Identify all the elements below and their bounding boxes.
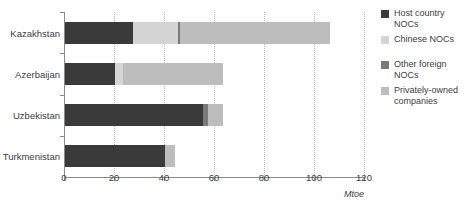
- gridline: [364, 12, 365, 177]
- category-label: Uzbekistan: [13, 110, 60, 121]
- legend-item: Other foreign NOCs: [381, 59, 466, 80]
- legend-swatch-icon: [381, 87, 389, 95]
- x-axis-tick-label: 80: [259, 172, 270, 183]
- category-label: Azerbaijan: [15, 68, 60, 79]
- x-axis-unit-label: Mtoe: [64, 189, 364, 199]
- legend-label: Chinese NOCs: [394, 34, 466, 45]
- bar-segment: [133, 22, 178, 44]
- legend-label: Privately-owned companies: [394, 85, 466, 106]
- x-axis-tick-label: 20: [109, 172, 120, 183]
- stacked-bar-chart: 020406080100120 KazakhstanAzerbaijanUzbe…: [0, 0, 466, 209]
- bar-segment: [180, 22, 330, 44]
- x-axis-tick-label: 0: [61, 172, 66, 183]
- bar-segment: [115, 63, 123, 85]
- legend-swatch-icon: [381, 61, 389, 69]
- y-axis-tick: [60, 12, 64, 13]
- bar-segment: [65, 145, 165, 167]
- bar-segment: [165, 145, 175, 167]
- x-axis-tick-label: 100: [306, 172, 322, 183]
- legend-label: Other foreign NOCs: [394, 59, 466, 80]
- category-label: Kazakhstan: [10, 27, 60, 38]
- y-axis-tick: [60, 53, 64, 54]
- legend-item: Chinese NOCs: [381, 34, 466, 54]
- bar-segment: [65, 63, 115, 85]
- plot-area: [64, 12, 364, 177]
- legend-label: Host country NOCs: [394, 8, 466, 29]
- legend-item: Privately-owned companies: [381, 85, 466, 106]
- bar-segment: [123, 63, 223, 85]
- legend-item: Host country NOCs: [381, 8, 466, 29]
- x-axis-tick-label: 60: [209, 172, 220, 183]
- chart-title: [64, 0, 354, 2]
- legend-swatch-icon: [381, 10, 389, 18]
- x-axis-tick-label: 120: [356, 172, 372, 183]
- category-label: Turkmenistan: [3, 151, 60, 162]
- y-axis-tick: [60, 136, 64, 137]
- bar-segment: [208, 104, 223, 126]
- bar-segment: [65, 22, 133, 44]
- legend-swatch-icon: [381, 36, 389, 44]
- bar-segment: [65, 104, 203, 126]
- chart-legend: Host country NOCsChinese NOCsOther forei…: [381, 8, 466, 111]
- y-axis-tick: [60, 95, 64, 96]
- x-axis-tick-label: 40: [159, 172, 170, 183]
